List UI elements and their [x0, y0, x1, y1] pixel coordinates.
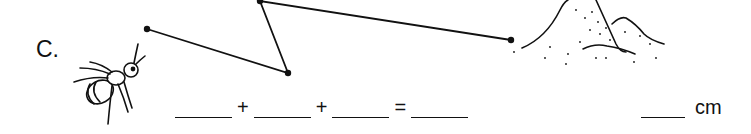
plus-sign: + [235, 96, 251, 118]
anthill-icon [513, 0, 664, 65]
unit-label: cm [693, 96, 724, 118]
final-answer: cm [638, 96, 724, 118]
equals-sign: = [392, 96, 408, 118]
answer-blank-2[interactable] [254, 99, 311, 118]
answer-blank-1[interactable] [175, 99, 232, 118]
answer-blank-total[interactable] [411, 99, 468, 118]
plus-sign: + [314, 96, 330, 118]
answer-blank-3[interactable] [332, 99, 389, 118]
ant-icon [74, 44, 145, 124]
sum-equation: + + = [172, 96, 471, 118]
final-answer-blank[interactable] [641, 99, 685, 118]
path-segments [147, 1, 511, 73]
